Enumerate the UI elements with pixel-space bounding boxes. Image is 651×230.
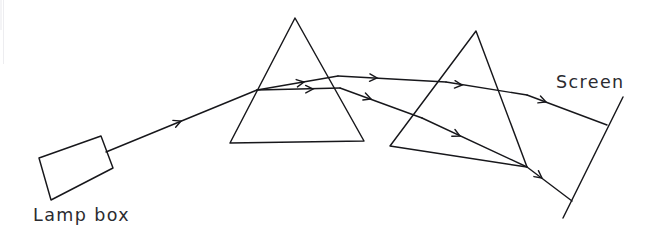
ray-exit-lower bbox=[527, 167, 572, 201]
screen-line bbox=[563, 97, 623, 218]
lamp-box-label: Lamp box bbox=[33, 205, 130, 225]
optics-ray-diagram: Lamp box Screen bbox=[0, 0, 651, 230]
diagram-canvas: Lamp box Screen bbox=[0, 0, 651, 230]
screen-label: Screen bbox=[556, 72, 625, 92]
ray-between-lower bbox=[340, 88, 422, 118]
ray-exit-upper bbox=[527, 95, 607, 125]
ray-between-upper-tail bbox=[446, 82, 527, 95]
ray-arrowhead bbox=[534, 171, 542, 178]
prism-two-shape bbox=[390, 31, 527, 167]
lamp-box-shape bbox=[39, 136, 113, 200]
ray-between-upper bbox=[338, 76, 446, 82]
